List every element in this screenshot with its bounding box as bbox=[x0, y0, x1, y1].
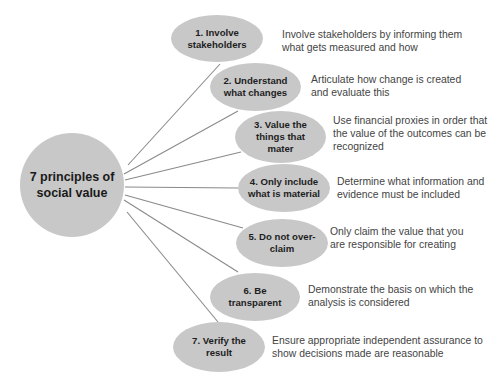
principle-description-3: Use financial proxies in order that the … bbox=[333, 114, 487, 153]
principle-node-2: 2. Understand what changes bbox=[210, 63, 301, 111]
principle-node-1: 1. Involve stakeholders bbox=[171, 15, 263, 62]
principle-label: 2. Understand what changes bbox=[224, 75, 288, 99]
center-label: 7 principles of social value bbox=[30, 169, 115, 201]
connector-4 bbox=[125, 187, 238, 188]
principle-node-4: 4. Only include what is material bbox=[238, 164, 330, 212]
principle-description-1: Involve stakeholders by informing them w… bbox=[282, 28, 462, 54]
principle-description-4: Determine what information and evidence … bbox=[337, 175, 484, 201]
principle-description-5: Only claim the value that you are respon… bbox=[330, 225, 463, 251]
principle-label: 5. Do not over- claim bbox=[248, 231, 315, 255]
connector-1 bbox=[128, 64, 220, 165]
connector-2 bbox=[124, 111, 238, 174]
principle-label: 4. Only include what is material bbox=[248, 176, 320, 200]
principle-label: 6. Be transparent bbox=[229, 285, 282, 309]
center-node: 7 principles of social value bbox=[20, 133, 124, 237]
principle-node-5: 5. Do not over- claim bbox=[236, 219, 328, 267]
principle-description-6: Demonstrate the basis on which the analy… bbox=[308, 283, 473, 309]
connector-3 bbox=[125, 152, 241, 180]
principle-description-2: Articulate how change is created and eva… bbox=[311, 73, 461, 99]
principle-description-7: Ensure appropriate independent assurance… bbox=[272, 334, 483, 360]
principle-node-3: 3. Value the things that mater bbox=[235, 111, 326, 163]
connector-7 bbox=[127, 212, 218, 322]
principle-label: 1. Involve stakeholders bbox=[187, 27, 246, 51]
principle-label: 7. Verify the result bbox=[192, 335, 246, 359]
principle-node-6: 6. Be transparent bbox=[210, 273, 300, 321]
principle-node-7: 7. Verify the result bbox=[173, 322, 265, 372]
principle-label: 3. Value the things that mater bbox=[254, 119, 307, 155]
